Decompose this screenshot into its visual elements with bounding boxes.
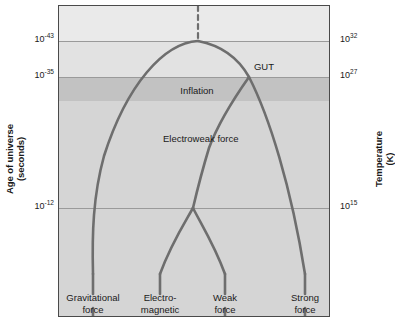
force-unification-curves <box>59 6 330 317</box>
right-tick-exp-1: 27 <box>350 68 357 75</box>
gravitational-force-curve <box>93 41 198 274</box>
right-axis-title-line2: (K) <box>384 111 395 207</box>
left-tick-exp-2: -12 <box>45 199 54 206</box>
right-tick-exp-2: 15 <box>350 199 357 206</box>
annotation-inflation-text: Inflation <box>180 85 213 96</box>
left-tick-label-0: 10-43 <box>4 34 54 44</box>
force-label-electromagnetic-line3: force <box>120 315 200 317</box>
annotation-electroweak-force: Electroweak force <box>163 133 233 144</box>
right-tick-label-1: 1027 <box>340 70 390 80</box>
left-tick-label-1: 10-35 <box>4 70 54 80</box>
annotation-electroweak-line2: force <box>217 133 238 144</box>
right-axis-title-line1: Temperature <box>373 111 384 207</box>
strong-force-curve <box>198 41 305 274</box>
right-tick-label-0: 1032 <box>340 34 390 44</box>
left-axis-title-line1: Age of universe <box>4 111 15 207</box>
left-axis-title: Age of universe (seconds) <box>4 111 26 207</box>
force-label-weak-line2: force <box>185 304 265 316</box>
annotation-electroweak-line1: Electroweak <box>163 133 215 144</box>
left-axis-title-line2: (seconds) <box>15 111 26 207</box>
right-tick-exp-0: 32 <box>350 32 357 39</box>
right-axis-title: Temperature (K) <box>373 111 395 207</box>
annotation-gut-text: GUT <box>254 61 274 72</box>
force-label-strong: Strong force <box>265 292 330 315</box>
force-label-strong-line1: Strong <box>265 292 330 304</box>
weak-force-lower-curve <box>193 208 225 274</box>
annotation-gut: GUT <box>234 61 294 72</box>
force-label-strong-line2: force <box>265 304 330 316</box>
electromagnetic-force-curve <box>160 208 193 274</box>
force-label-weak: Weak force <box>185 292 265 315</box>
left-tick-exp-1: -35 <box>45 68 54 75</box>
right-tick-label-2: 1015 <box>340 201 390 211</box>
force-label-weak-line1: Weak <box>185 292 265 304</box>
plot-area: GUT Inflation Electroweak force Gravitat… <box>58 5 330 317</box>
annotation-inflation: Inflation <box>167 85 227 96</box>
left-tick-label-2: 10-12 <box>4 201 54 211</box>
left-tick-exp-0: -43 <box>45 32 54 39</box>
